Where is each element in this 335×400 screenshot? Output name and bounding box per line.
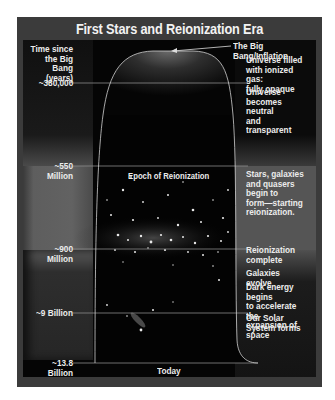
solar-system-note: Our Solar System forms (246, 313, 301, 332)
marker-900-million: ~900 Million (30, 244, 73, 263)
stars-form-note: Stars, galaxies and quasers begin to for… (246, 169, 304, 217)
marker-380000: ~380,000 (38, 78, 73, 88)
diagram-canvas: Time since the Big Bang (years) ~380,000… (23, 40, 316, 377)
epoch-label: Epoch of Reionization (128, 172, 209, 182)
marker-9-billion: ~9 Billion (36, 308, 73, 318)
diagram-title: First Stars and Reionization Era (35, 18, 303, 40)
marker-13-8-billion: ~13.8 Billion (30, 358, 73, 377)
reionization-complete-note: Reionization complete (246, 245, 295, 264)
today-label: Today (157, 366, 181, 376)
neutral-note: Universe becomes neutral and transparent (246, 87, 306, 135)
marker-550-million: ~550 Million (30, 161, 73, 180)
